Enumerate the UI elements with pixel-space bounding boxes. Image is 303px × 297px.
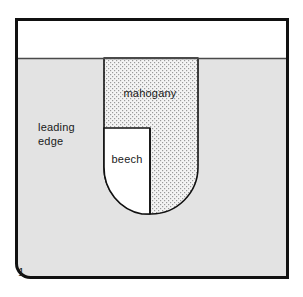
leading-edge-label-line2: edge <box>38 135 63 147</box>
figure-number: 1 <box>18 266 24 278</box>
top-white-band <box>14 18 290 59</box>
mahogany-label: mahogany <box>124 87 177 99</box>
cross-section-diagram: mahogany beech leading edge 1 <box>0 0 303 297</box>
beech-label: beech <box>112 153 143 165</box>
figure-container: mahogany beech leading edge 1 <box>0 0 303 297</box>
frame-interior <box>14 18 290 280</box>
leading-edge-label-line1: leading <box>38 121 75 133</box>
